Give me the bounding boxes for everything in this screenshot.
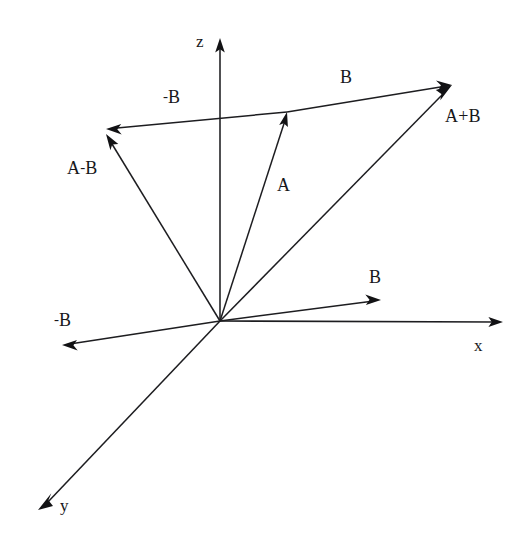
vector-label-a: A [277,176,290,194]
vector-a-plus-b-group [220,85,452,321]
vector-label-neg-b-upper-text: B [168,87,180,107]
vector-neg-b-lower-arrowhead [62,340,78,351]
vector-a-line [220,122,285,321]
vector-a-minus-b-line [112,144,220,321]
y-axis-arrowhead [38,493,53,510]
vector-a-minus-b-arrowhead [106,134,118,150]
axis-label-x: x [474,337,483,354]
axis-group-y [38,321,220,510]
axis-label-z: z [196,33,204,50]
axis-label-y: y [60,497,69,514]
x-axis-line [220,321,494,322]
minus-sign-icon: - [54,311,59,327]
vector-label-a-minus-b: A-B [67,159,97,177]
minus-sign-icon: - [80,159,85,175]
vector-b-lower-arrowhead [365,294,381,305]
vector-a-minus-b-group [106,134,220,321]
vector-diagram: z x y A A+B A-B B -B B -B [0,0,530,546]
vector-b-upper-line [287,87,442,112]
vector-label-a-minus-b-after: B [85,158,97,178]
vector-b-lower-line [220,302,370,322]
vector-label-neg-b-upper: -B [163,88,180,106]
vector-neg-b-lower-line [73,321,220,344]
vector-b-lower-group [220,294,381,321]
vector-canvas [0,0,530,546]
vector-label-neg-b-lower-text: B [59,310,71,330]
vector-neg-b-upper-group [106,112,287,135]
vector-label-b-lower: B [369,268,381,286]
vector-label-a-plus-b: A+B [445,107,481,125]
axis-group-x [220,317,503,327]
minus-sign-icon: - [163,88,168,104]
vector-neg-b-upper-line [117,112,287,128]
vector-label-a-minus-b-before: A [67,158,80,178]
vector-label-b-upper: B [340,68,352,86]
vector-label-neg-b-lower: -B [54,311,71,329]
vector-b-upper-group [287,81,452,112]
vector-neg-b-upper-arrowhead [106,124,122,135]
vector-a-group [220,112,288,321]
axis-group-z [215,38,225,321]
vector-a-plus-b-line [220,95,442,321]
